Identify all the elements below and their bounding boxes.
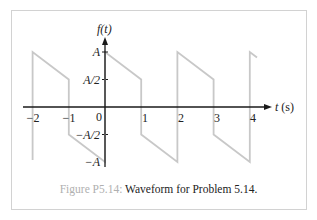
x-tick-labels: −2 −1 0 1 2 3 4 (27, 110, 256, 125)
svg-text:1: 1 (142, 111, 148, 125)
y-tick-A-half: A/2 (82, 73, 100, 87)
y-tick-neg-A: −A (85, 155, 101, 169)
y-axis-arrow-icon (102, 37, 108, 45)
y-axis-label: f(t) (97, 22, 112, 36)
svg-text:3: 3 (214, 111, 220, 125)
caption-label: Figure P5.14: (60, 183, 123, 195)
svg-text:0: 0 (96, 110, 102, 124)
svg-text:2: 2 (178, 111, 184, 125)
svg-text:−2: −2 (27, 111, 40, 125)
x-axis-arrow-icon (264, 104, 272, 110)
x-axis-label: t (s) (275, 100, 294, 114)
figure-caption: Figure P5.14: Waveform for Problem 5.14. (0, 183, 317, 195)
y-tick-neg-A-half: −A/2 (75, 128, 100, 142)
y-tick-A: A (92, 45, 101, 59)
svg-text:−1: −1 (63, 111, 76, 125)
svg-text:4: 4 (250, 111, 256, 125)
caption-text: Waveform for Problem 5.14. (122, 183, 257, 195)
